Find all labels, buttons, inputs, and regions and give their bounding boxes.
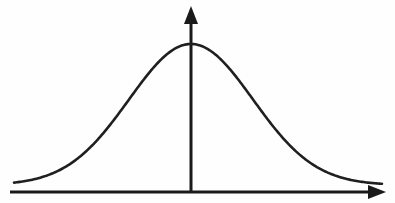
bell-curve-chart xyxy=(0,0,395,203)
bell-curve-figure: A symmetric bell-shaped normal distribut… xyxy=(0,0,395,203)
chart-background xyxy=(0,0,395,203)
